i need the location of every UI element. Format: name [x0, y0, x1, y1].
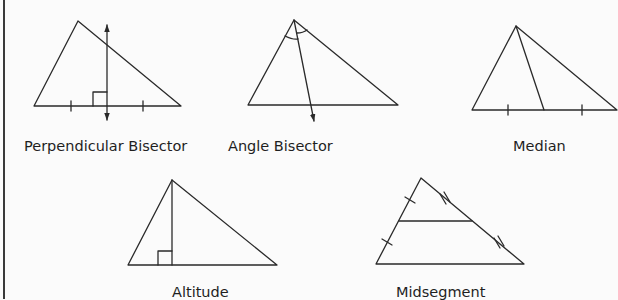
- right-angle-mark: [93, 92, 107, 106]
- angle-arc-right: [297, 30, 307, 33]
- median-segment: [516, 26, 544, 110]
- triangle: [248, 20, 398, 105]
- altitude-figure: [128, 180, 277, 265]
- triangle: [128, 180, 277, 265]
- perpendicular-bisector-figure: [34, 21, 181, 120]
- label-midsegment: Midsegment: [396, 285, 485, 300]
- triangle: [472, 26, 617, 110]
- angle-arc-left: [285, 36, 298, 39]
- double-tick-mark-a: [440, 194, 446, 204]
- angle-bisector-ray: [294, 20, 314, 121]
- angle-bisector-figure: [248, 20, 398, 121]
- median-figure: [472, 26, 617, 115]
- label-perpendicular-bisector: Perpendicular Bisector: [24, 139, 187, 154]
- right-angle-mark: [158, 251, 172, 265]
- label-altitude: Altitude: [172, 285, 229, 300]
- label-median: Median: [513, 139, 566, 154]
- midsegment-figure: [376, 178, 524, 264]
- label-angle-bisector: Angle Bisector: [228, 139, 333, 154]
